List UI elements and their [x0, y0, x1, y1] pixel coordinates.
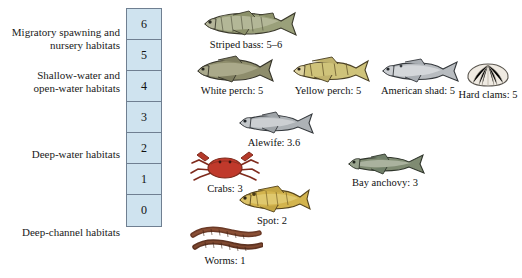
organism-bay-anchovy: Bay anchovy: 3 — [330, 152, 440, 189]
scale-cell-6: 6 — [127, 9, 161, 40]
organism-striped-bass: Striped bass: 5–6 — [186, 8, 306, 51]
white-perch-icon — [188, 54, 276, 84]
american-shad-icon — [375, 58, 461, 84]
striped-bass-icon — [193, 8, 299, 38]
american-shad-label: American shad: 5 — [366, 85, 470, 97]
salinity-scale: 6 5 4 3 2 1 0 — [126, 8, 162, 227]
alewife-label: Alewife: 3.6 — [226, 137, 322, 149]
scale-cell-1: 1 — [127, 164, 161, 195]
scale-cell-2: 2 — [127, 133, 161, 164]
habitat-label-deepwater-line1: Deep-water habitats — [8, 148, 120, 161]
organism-hard-clams: Hard clams: 5 — [456, 62, 520, 101]
organism-alewife: Alewife: 3.6 — [226, 110, 322, 149]
scale-cell-5: 5 — [127, 40, 161, 71]
bay-anchovy-icon — [343, 152, 427, 176]
worms-label: Worms: 1 — [182, 255, 268, 267]
habitat-label-migratory-line2: nursery habitats — [8, 39, 120, 52]
hard-clam-icon — [465, 62, 511, 88]
habitat-label-shallow-line2: open-water habitats — [8, 82, 120, 95]
white-perch-label: White perch: 5 — [182, 85, 282, 97]
worm-icon — [187, 226, 263, 254]
hard-clams-label: Hard clams: 5 — [456, 89, 520, 101]
scale-cell-0: 0 — [127, 195, 161, 226]
habitat-label-migratory-line1: Migratory spawning and — [8, 26, 120, 39]
scale-cell-4: 4 — [127, 71, 161, 102]
organism-yellow-perch: Yellow perch: 5 — [278, 56, 378, 97]
habitat-label-deepchannel: Deep-channel habitats — [8, 226, 120, 239]
crab-icon — [189, 150, 261, 182]
spot-fish-icon — [232, 184, 312, 214]
habitat-label-shallow-line1: Shallow-water and — [8, 69, 120, 82]
organism-american-shad: American shad: 5 — [366, 58, 470, 97]
habitat-label-migratory: Migratory spawning and nursery habitats — [8, 26, 120, 52]
yellow-perch-icon — [284, 56, 372, 84]
organism-white-perch: White perch: 5 — [182, 54, 282, 97]
alewife-icon — [232, 110, 316, 136]
diagram-canvas: Migratory spawning and nursery habitats … — [0, 0, 522, 278]
scale-cell-3: 3 — [127, 102, 161, 133]
habitat-label-deepwater: Deep-water habitats — [8, 148, 120, 161]
yellow-perch-label: Yellow perch: 5 — [278, 85, 378, 97]
bay-anchovy-label: Bay anchovy: 3 — [330, 177, 440, 189]
organism-spot: Spot: 2 — [226, 184, 318, 227]
habitat-label-shallow: Shallow-water and open-water habitats — [8, 69, 120, 95]
habitat-label-deepchannel-line1: Deep-channel habitats — [8, 226, 120, 239]
organism-worms: Worms: 1 — [182, 226, 268, 267]
striped-bass-label: Striped bass: 5–6 — [186, 39, 306, 51]
